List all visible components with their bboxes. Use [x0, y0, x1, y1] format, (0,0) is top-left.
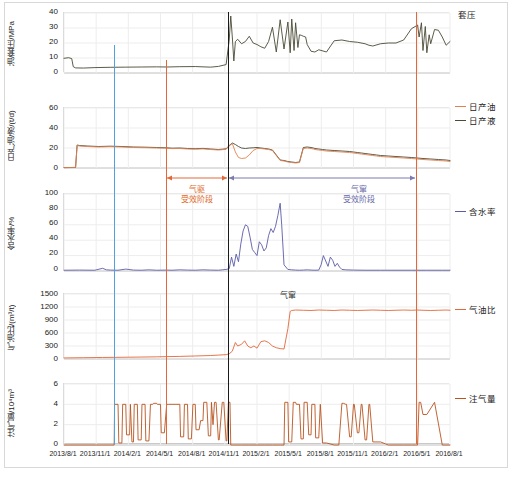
annotation-gas-drive-line1: 气驱 [181, 185, 213, 195]
x-tick-11: 2016/5/1 [403, 450, 430, 457]
y-tick-p3-60: 60 [24, 219, 58, 227]
y-tick-p3-80: 80 [24, 204, 58, 212]
annotation-gas-channeling-line2: 受效阶段 [343, 195, 375, 205]
panel-casing-pressure [63, 12, 449, 72]
annotation-gas-channeling-stage: 气窜 受效阶段 [343, 185, 375, 205]
y-tick-p3-100: 100 [24, 189, 58, 197]
legend-swatch-daily-fluid [455, 120, 466, 121]
x-tick-9: 2015/11/1 [337, 450, 368, 457]
legend-label-gas-injection: 注气量 [469, 392, 496, 404]
legend-label-casing-pressure: 套压 [458, 8, 476, 20]
y-tick-p2-0: 0 [24, 164, 58, 172]
legend-swatch-water-cut [455, 211, 466, 212]
legend-water-cut: 含水率 [455, 205, 496, 217]
annotation-gas-drive-line2: 受效阶段 [181, 195, 213, 205]
orange-event-line-2 [416, 12, 417, 444]
x-tick-5: 2014/11/1 [209, 450, 240, 457]
legend-gas-injection: 注气量 [455, 392, 496, 404]
y-tick-p5-2: 2 [24, 420, 58, 428]
y-tick-p1-20: 20 [24, 38, 58, 46]
y-axis-label-gas-injection: 注气量/10⁴m³ [6, 382, 18, 444]
gridlines [64, 194, 450, 271]
legend-swatch-daily-oil [455, 106, 466, 107]
legend-label-daily-fluid: 日产液 [469, 114, 496, 126]
y-tick-p4-600: 600 [16, 329, 58, 337]
y-axis-label-daily-production: 日产油/液/(t/d) [6, 98, 18, 174]
x-tick-3: 2014/5/1 [146, 450, 173, 457]
legend-swatch-gas-oil-ratio [455, 309, 466, 310]
y-tick-p5-4: 4 [24, 400, 58, 408]
casing-pressure-plot [64, 13, 450, 73]
y-tick-p4-300: 300 [16, 342, 58, 350]
legend-label-water-cut: 含水率 [469, 205, 496, 217]
legend-gas-oil-ratio: 气油比 [455, 303, 496, 315]
y-tick-p3-20: 20 [24, 249, 58, 257]
daily-production-plot [64, 108, 450, 168]
y-tick-p5-6: 6 [24, 380, 58, 388]
panel-gas-injection [63, 383, 449, 444]
y-axis-label-casing-pressure: 油/套压/MPa [6, 8, 18, 80]
legend-item-daily-fluid: 日产液 [455, 114, 496, 126]
y-tick-p4-1200: 1200 [16, 303, 58, 311]
x-tick-4: 2014/8/1 [178, 450, 205, 457]
y-tick-p1-30: 30 [24, 23, 58, 31]
x-tick-2: 2014/2/1 [114, 450, 141, 457]
legend-label-daily-oil: 日产油 [469, 100, 496, 112]
y-tick-p4-1500: 1500 [16, 290, 58, 298]
blue-event-line [114, 45, 115, 444]
y-tick-p4-900: 900 [16, 316, 58, 324]
annotation-gas-channeling-line1: 气窜 [343, 185, 375, 195]
gas-oil-ratio-plot [64, 294, 450, 359]
orange-event-line [166, 60, 167, 444]
gridlines [64, 108, 450, 168]
y-tick-p1-40: 40 [24, 8, 58, 16]
panel-water-cut [63, 193, 449, 270]
legend-item-daily-oil: 日产油 [455, 100, 496, 112]
x-tick-6: 2015/2/1 [242, 450, 269, 457]
gridlines [64, 294, 450, 359]
panel-daily-production [63, 107, 449, 167]
y-tick-p2-60: 60 [24, 104, 58, 112]
gas-injection-plot [64, 384, 450, 445]
panel-gas-oil-ratio [63, 293, 449, 358]
annotation-gas-channeling-label: 气窜 [280, 291, 296, 301]
y-tick-p1-10: 10 [24, 53, 58, 61]
x-tick-0: 2013/8/1 [49, 450, 76, 457]
legend-label-gas-oil-ratio: 气油比 [469, 303, 496, 315]
y-tick-p2-20: 20 [24, 144, 58, 152]
y-tick-p3-40: 40 [24, 234, 58, 242]
y-tick-p5-0: 0 [24, 440, 58, 448]
y-tick-p4-0: 0 [16, 355, 58, 363]
x-tick-7: 2015/5/1 [275, 450, 302, 457]
x-tick-1: 2013/11/1 [80, 450, 111, 457]
water-cut-plot [64, 194, 450, 271]
x-tick-8: 2015/8/1 [307, 450, 334, 457]
annotation-gas-drive-stage: 气驱 受效阶段 [181, 185, 213, 205]
x-tick-12: 2016/8/1 [435, 450, 462, 457]
y-axis-label-water-cut: 含水率/% [6, 205, 18, 261]
legend-casing-pressure: 套压 [458, 8, 476, 20]
legend-daily-production: 日产油 日产液 [455, 100, 496, 126]
x-tick-10: 2016/2/1 [371, 450, 398, 457]
y-tick-p1-0: 0 [24, 68, 58, 76]
y-tick-p3-0: 0 [24, 265, 58, 273]
black-event-line [228, 12, 229, 444]
annotation-gas-channeling-label-text: 气窜 [280, 291, 296, 301]
y-tick-p2-40: 40 [24, 124, 58, 132]
legend-swatch-gas-injection [455, 398, 466, 399]
